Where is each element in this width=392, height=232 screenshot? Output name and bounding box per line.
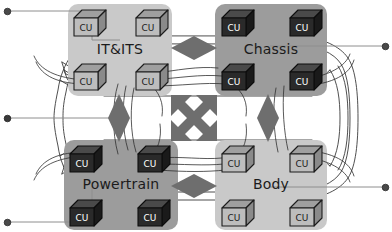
- endpoint-right-top[interactable]: [381, 42, 390, 51]
- cross-domain-gateway-icon[interactable]: [171, 95, 217, 141]
- link-powertrain-body-diamond[interactable]: [171, 174, 217, 198]
- link-chassis-body-diamond[interactable]: [257, 94, 279, 142]
- link-it-powertrain-diamond[interactable]: [108, 94, 130, 142]
- endpoint-left-bottom[interactable]: [3, 218, 12, 227]
- endpoint-right-bottom[interactable]: [381, 183, 390, 192]
- endpoint-left-middle[interactable]: [3, 114, 12, 123]
- endpoint-left-top[interactable]: [3, 7, 12, 16]
- domain-architecture-diagram: CU CU CU CU CU: [0, 0, 392, 232]
- link-it-chassis-diamond[interactable]: [171, 36, 217, 60]
- connector-symbols: [0, 0, 392, 232]
